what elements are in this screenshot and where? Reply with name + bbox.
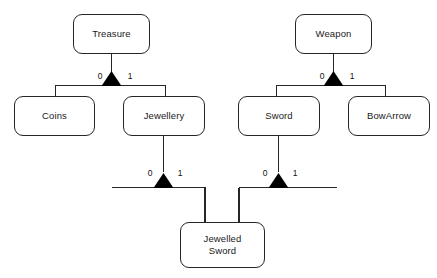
class-label-coins: Coins [42,110,67,122]
multiplicity-weapon-right: 1 [347,72,357,81]
class-label-sword: Sword [265,110,292,122]
class-label-jewellery: Jewellery [144,110,185,122]
class-label-jewelled-sword: Jewelled Sword [204,233,242,257]
multiplicity-treasure-left: 0 [95,72,105,81]
class-label-bowarrow: BowArrow [367,110,411,122]
class-box-bowarrow[interactable]: BowArrow [348,96,430,136]
class-label-weapon: Weapon [316,28,352,40]
class-diagram-canvas: Treasure Weapon Coins Jewellery Sword Bo… [0,0,437,278]
class-box-jewelled-sword[interactable]: Jewelled Sword [180,222,265,268]
class-box-jewellery[interactable]: Jewellery [123,96,205,136]
multiplicity-sword-left: 0 [260,169,270,178]
class-box-sword[interactable]: Sword [238,96,320,136]
multiplicity-weapon-left: 0 [317,72,327,81]
multiplicity-jewellery-right: 1 [175,169,185,178]
generalization-triangle-jewellery [154,173,174,188]
multiplicity-treasure-right: 1 [125,72,135,81]
class-box-treasure[interactable]: Treasure [73,14,150,54]
class-box-coins[interactable]: Coins [14,96,95,136]
class-box-weapon[interactable]: Weapon [295,14,372,54]
generalization-triangle-sword [269,173,289,188]
class-label-treasure: Treasure [92,28,130,40]
multiplicity-sword-right: 1 [290,169,300,178]
multiplicity-jewellery-left: 0 [145,169,155,178]
